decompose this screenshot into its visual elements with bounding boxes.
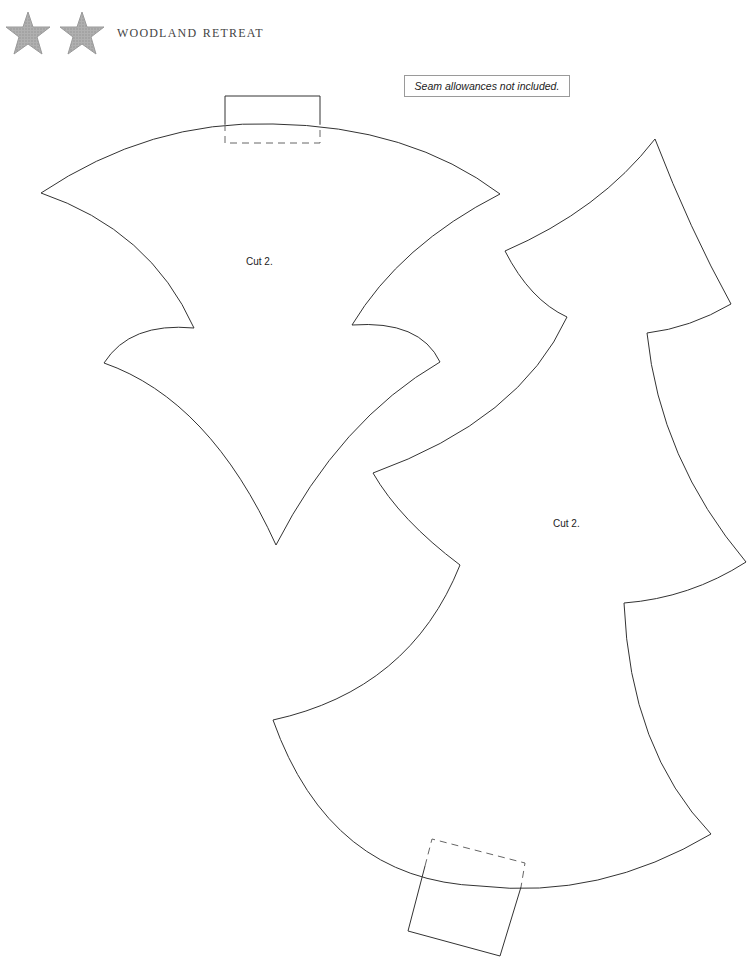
cut-instruction-ornament: Cut 2. [246, 256, 273, 267]
ornament-star-piece [41, 96, 500, 545]
cut-instruction-tree: Cut 2. [553, 518, 580, 529]
pattern-pieces [0, 0, 756, 971]
tree-piece [273, 139, 746, 956]
